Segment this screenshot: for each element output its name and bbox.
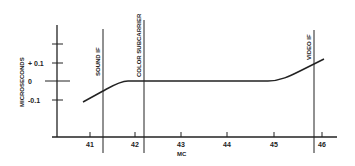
- y-tick-label-minus-0.1: -0.1: [28, 97, 40, 104]
- sound-if-label: SOUND IF: [95, 47, 101, 76]
- x-tick-label-46: 46: [318, 141, 326, 148]
- y-tick-label-plus-0.1: + 0.1: [28, 60, 44, 67]
- y-tick-label-zero: 0: [28, 78, 32, 85]
- delay-chart: + 0.1 0 -0.1 MICROSECONDS 41 42 43 44 45…: [0, 0, 355, 166]
- x-tick-label-43: 43: [177, 141, 185, 148]
- x-axis-title: MC: [177, 151, 187, 157]
- video-if-label: VIDEO IF: [306, 34, 312, 60]
- color-subcarrier-label: COLOR SUBCARRIER: [136, 13, 142, 77]
- x-tick-label-42: 42: [131, 141, 139, 148]
- x-tick-label-45: 45: [270, 141, 278, 148]
- delay-curve: [83, 59, 324, 102]
- y-axis-title: MICROSECONDS: [19, 57, 25, 107]
- x-tick-label-44: 44: [223, 141, 231, 148]
- x-tick-label-41: 41: [86, 141, 94, 148]
